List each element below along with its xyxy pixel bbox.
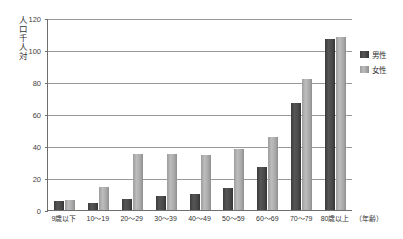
bar-male [122, 199, 132, 210]
y-axis-tick-label: 20 [22, 175, 44, 184]
bar-female [65, 200, 75, 210]
bar-group [82, 19, 116, 210]
legend-item: 女性 [360, 64, 403, 75]
y-axis-tick-label: 80 [22, 79, 44, 88]
y-axis-tick-label: 0 [22, 207, 44, 216]
plot-area [47, 19, 352, 211]
bar-male [88, 203, 98, 210]
legend-label: 男性 [372, 49, 386, 60]
y-axis-tickmark [45, 211, 48, 212]
bar-chart: 人口千人対 020406080100120 9歳以下10〜1920〜2930〜3… [0, 0, 403, 239]
bar-male [325, 39, 335, 210]
bar-group [318, 19, 352, 210]
bar-male [223, 188, 233, 210]
bar-group [48, 19, 82, 210]
bar-group [284, 19, 318, 210]
x-axis-tick-label: 80歳以上 [318, 213, 352, 227]
bar-male [156, 196, 166, 210]
bar-male [257, 167, 267, 210]
chart-legend: 男性女性 [360, 49, 403, 79]
bar-group [251, 19, 285, 210]
bar-female [268, 137, 278, 210]
x-axis-tick-label: 20〜29 [115, 213, 149, 227]
x-axis-tick-label: 50〜59 [216, 213, 250, 227]
legend-swatch-icon [360, 66, 369, 73]
legend-swatch-icon [360, 51, 369, 58]
bar-female [201, 155, 211, 210]
x-axis-tick-label: 30〜39 [149, 213, 183, 227]
x-axis-tick-label: 40〜49 [183, 213, 217, 227]
bar-female [133, 154, 143, 210]
bar-female [234, 149, 244, 210]
x-axis-tick-label: 60〜69 [250, 213, 284, 227]
y-axis-tick-label: 40 [22, 143, 44, 152]
x-axis-tick-label: 9歳以下 [47, 213, 81, 227]
y-axis-tick-labels: 020406080100120 [22, 0, 44, 239]
y-axis-tick-label: 60 [22, 111, 44, 120]
bar-female [99, 187, 109, 210]
bar-group [183, 19, 217, 210]
bar-male [291, 103, 301, 210]
x-axis-unit-label: （年齢） [355, 213, 383, 223]
bar-male [190, 194, 200, 210]
y-axis-tick-label: 100 [22, 47, 44, 56]
y-axis-tick-label: 120 [22, 15, 44, 24]
x-axis-tick-label: 10〜19 [81, 213, 115, 227]
bar-group [116, 19, 150, 210]
bar-group [149, 19, 183, 210]
bar-series-container [48, 19, 352, 210]
bar-male [54, 201, 64, 210]
x-axis-tick-labels: 9歳以下10〜1920〜2930〜3940〜4950〜5960〜6970〜798… [47, 213, 352, 227]
bar-female [167, 154, 177, 210]
x-axis-tick-label: 70〜79 [284, 213, 318, 227]
bar-female [336, 37, 346, 210]
legend-label: 女性 [372, 64, 386, 75]
bar-female [302, 79, 312, 210]
legend-item: 男性 [360, 49, 403, 60]
bar-group [217, 19, 251, 210]
